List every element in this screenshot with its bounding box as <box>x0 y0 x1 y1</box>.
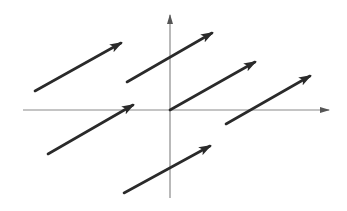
vector-arrow-v5 <box>48 105 133 154</box>
vector-arrow-v3 <box>170 62 255 110</box>
vector-arrow-v6 <box>124 146 210 193</box>
vector-diagram <box>0 0 347 211</box>
vectors <box>35 33 310 193</box>
vector-arrow-v1 <box>35 43 121 91</box>
vector-arrow-v4 <box>226 76 310 124</box>
